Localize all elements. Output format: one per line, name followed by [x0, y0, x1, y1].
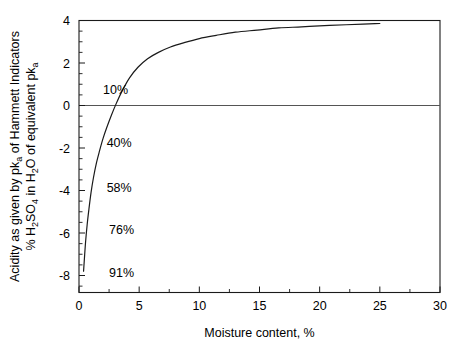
y-tick-label: -2 [59, 142, 70, 156]
annotation-40-percent: 40% [107, 136, 132, 150]
annotation-10-percent: 10% [103, 83, 128, 97]
x-tick-label: 10 [192, 299, 206, 313]
x-tick-label: 5 [136, 299, 143, 313]
x-tick-label: 20 [313, 299, 327, 313]
svg-text:Acidity as given by pka of Ham: Acidity as given by pka of Hammett Indic… [8, 31, 24, 282]
x-tick-label: 25 [373, 299, 387, 313]
annotation-76-percent: 76% [109, 223, 134, 237]
chart-background [0, 0, 463, 349]
y-tick-label: 0 [63, 99, 70, 113]
x-axis-title: Moisture content, % [204, 326, 314, 340]
y-axis-title-line-2: % H2SO4 in H2O of equivalent pka [24, 62, 40, 250]
acidity-vs-moisture-chart: 420-2-4-6-8 051015202530 10%40%58%76%91%… [0, 0, 463, 349]
y-tick-label: -4 [59, 184, 70, 198]
x-tick-label: 30 [433, 299, 447, 313]
y-tick-label: -6 [59, 227, 70, 241]
svg-text:% H2SO4 in H2O of equivalent p: % H2SO4 in H2O of equivalent pka [24, 62, 40, 250]
x-tick-label: 15 [253, 299, 267, 313]
y-axis-title-line-1: Acidity as given by pka of Hammett Indic… [8, 31, 24, 282]
chart-figure: 420-2-4-6-8 051015202530 10%40%58%76%91%… [0, 0, 463, 349]
y-tick-label: 2 [63, 57, 70, 71]
x-tick-label: 0 [76, 299, 83, 313]
annotation-91-percent: 91% [109, 266, 134, 280]
annotation-58-percent: 58% [107, 181, 132, 195]
y-tick-label: -8 [59, 269, 70, 283]
y-tick-label: 4 [63, 14, 70, 28]
